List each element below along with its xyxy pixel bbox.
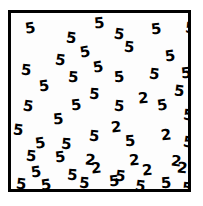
- distractor-glyph-5[interactable]: 5: [108, 173, 120, 189]
- distractor-glyph-5[interactable]: 5: [148, 66, 160, 82]
- distractor-glyph-5[interactable]: 5: [20, 62, 32, 78]
- distractor-glyph-5[interactable]: 5: [113, 70, 124, 86]
- target-glyph-2[interactable]: 2: [160, 127, 172, 143]
- distractor-glyph-5[interactable]: 5: [67, 70, 78, 86]
- distractor-glyph-5[interactable]: 5: [173, 83, 185, 99]
- distractor-glyph-5[interactable]: 5: [24, 20, 36, 36]
- target-glyph-2[interactable]: 2: [176, 160, 188, 176]
- distractor-glyph-5[interactable]: 5: [52, 112, 64, 128]
- distractor-glyph-5[interactable]: 5: [88, 128, 100, 144]
- target-glyph-2[interactable]: 2: [110, 119, 122, 135]
- distractor-glyph-5[interactable]: 5: [156, 97, 168, 113]
- distractor-glyph-5[interactable]: 5: [65, 30, 77, 46]
- stimulus-canvas: 5555555555555555555255555552525555552225…: [0, 0, 203, 206]
- distractor-glyph-5[interactable]: 5: [164, 48, 176, 64]
- distractor-glyph-5[interactable]: 5: [54, 52, 66, 68]
- distractor-glyph-5[interactable]: 5: [15, 176, 27, 192]
- distractor-glyph-5[interactable]: 5: [150, 21, 162, 37]
- target-glyph-2[interactable]: 2: [141, 163, 153, 179]
- distractor-glyph-5[interactable]: 5: [78, 176, 90, 192]
- distractor-glyph-5[interactable]: 5: [184, 21, 191, 37]
- distractor-glyph-5[interactable]: 5: [70, 97, 82, 113]
- distractor-glyph-5[interactable]: 5: [124, 134, 135, 150]
- distractor-glyph-5[interactable]: 5: [54, 149, 66, 165]
- distractor-glyph-5[interactable]: 5: [12, 122, 24, 138]
- distractor-glyph-5[interactable]: 5: [181, 180, 191, 192]
- distractor-glyph-5[interactable]: 5: [38, 78, 50, 94]
- target-glyph-2[interactable]: 2: [90, 160, 102, 176]
- distractor-glyph-5[interactable]: 5: [92, 59, 105, 75]
- distractor-glyph-5[interactable]: 5: [182, 108, 191, 124]
- distractor-glyph-5[interactable]: 5: [160, 176, 171, 192]
- distractor-glyph-5[interactable]: 5: [113, 98, 125, 114]
- distractor-glyph-5[interactable]: 5: [66, 168, 78, 184]
- target-glyph-2[interactable]: 2: [137, 91, 149, 107]
- distractor-glyph-5[interactable]: 5: [123, 39, 135, 55]
- distractor-glyph-5[interactable]: 5: [134, 178, 146, 192]
- distractor-glyph-5[interactable]: 5: [40, 177, 52, 192]
- distractor-glyph-5[interactable]: 5: [22, 98, 35, 114]
- search-array-frame: 5555555555555555555255555552525555552225…: [8, 10, 191, 192]
- distractor-glyph-5[interactable]: 5: [79, 44, 92, 61]
- distractor-glyph-5[interactable]: 5: [180, 65, 191, 81]
- target-glyph-2[interactable]: 2: [128, 153, 140, 169]
- distractor-glyph-5[interactable]: 5: [93, 16, 105, 32]
- distractor-glyph-5[interactable]: 5: [88, 87, 100, 103]
- distractor-glyph-5[interactable]: 5: [182, 134, 191, 150]
